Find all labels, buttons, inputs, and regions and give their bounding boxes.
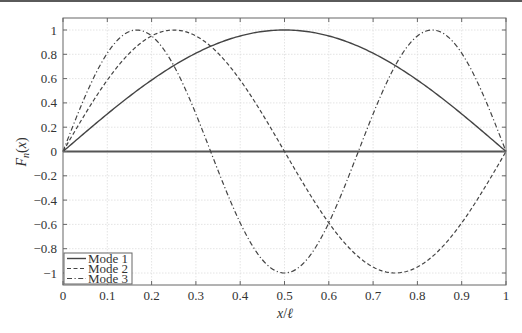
y-axis-label: Fn(x): [14, 137, 31, 167]
y-tick-labels: 10.80.60.40.20−0.2−0.4−0.6−0.8−1: [33, 23, 57, 281]
legend-label-mode-3: Mode 3: [88, 271, 128, 286]
y-tick-label: 0.8: [41, 47, 57, 62]
y-tick-label: −1: [43, 266, 57, 281]
x-tick-labels: 00.10.20.30.40.50.60.70.80.91: [60, 288, 510, 303]
y-tick-label: 0.4: [41, 95, 58, 110]
y-tick-label: −0.4: [33, 193, 57, 208]
x-tick-label: 0.9: [454, 288, 470, 303]
y-tick-label: −0.6: [33, 217, 57, 232]
x-tick-label: 0.2: [143, 288, 159, 303]
x-tick-label: 1: [503, 288, 510, 303]
y-tick-label: 0: [51, 144, 58, 159]
legend: Mode 1 Mode 2 Mode 3: [64, 251, 132, 286]
x-tick-label: 0.6: [321, 288, 338, 303]
y-tick-label: 0.2: [41, 120, 57, 135]
x-tick-label: 0.4: [232, 288, 249, 303]
x-tick-label: 0.3: [188, 288, 204, 303]
x-tick-label: 0.7: [365, 288, 382, 303]
line-chart: 00.10.20.30.40.50.60.70.80.91 10.80.60.4…: [0, 0, 522, 333]
y-tick-label: 0.6: [41, 71, 58, 86]
y-tick-label: −0.8: [33, 241, 57, 256]
x-tick-label: 0.8: [409, 288, 425, 303]
x-tick-label: 0.1: [99, 288, 115, 303]
x-axis-label: x/ℓ: [276, 306, 293, 321]
y-tick-label: 1: [51, 23, 58, 38]
y-tick-label: −0.2: [33, 168, 57, 183]
x-tick-label: 0: [60, 288, 67, 303]
x-tick-label: 0.5: [276, 288, 292, 303]
